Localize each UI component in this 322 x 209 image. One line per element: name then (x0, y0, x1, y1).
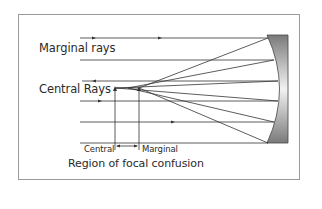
marginal-rays-label: Marginal rays (39, 41, 115, 55)
concave-mirror (267, 35, 288, 143)
reflected-ray (139, 38, 268, 88)
region-caption: Region of focal confusion (68, 157, 204, 170)
central-label: Central (84, 144, 114, 154)
central-rays-label: Central Rays (39, 82, 111, 96)
marginal-label: Marginal (142, 144, 178, 154)
reflected-ray (139, 88, 268, 143)
optics-diagram (0, 0, 322, 209)
reflected-ray (116, 81, 278, 88)
reflected-ray (128, 88, 274, 122)
